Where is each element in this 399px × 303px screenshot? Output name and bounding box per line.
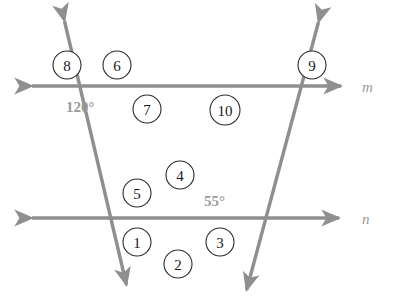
angle-marker-1: 1	[123, 228, 151, 256]
angle-number-1: 1	[133, 235, 141, 251]
angle-number-6: 6	[113, 58, 121, 74]
angle-marker-10: 10	[210, 95, 240, 125]
angle-number-4: 4	[176, 168, 184, 184]
line-label-n: n	[362, 211, 370, 227]
angle-number-7: 7	[143, 102, 151, 118]
angle-number-5: 5	[133, 186, 141, 202]
angle-number-9: 9	[308, 58, 316, 74]
angle-marker-6: 6	[103, 51, 131, 79]
angle-measure-55: 55°	[204, 193, 225, 209]
angle-marker-9: 9	[298, 51, 326, 79]
angle-marker-2: 2	[164, 250, 192, 278]
angle-number-3: 3	[216, 235, 224, 251]
angle-marker-4: 4	[166, 161, 194, 189]
angle-number-2: 2	[174, 257, 182, 273]
angle-measure-120: 120°	[66, 99, 95, 115]
geometry-diagram: m n 120° 55° 1 2 3 4	[0, 0, 399, 303]
angle-marker-5: 5	[123, 179, 151, 207]
angle-number-8: 8	[63, 58, 71, 74]
angle-marker-8: 8	[53, 51, 81, 79]
line-name-labels: m n	[362, 79, 373, 227]
diagram-canvas: m n 120° 55° 1 2 3 4	[0, 0, 399, 303]
angle-marker-3: 3	[206, 228, 234, 256]
angle-number-10: 10	[218, 103, 233, 119]
angle-marker-7: 7	[133, 95, 161, 123]
line-label-m: m	[362, 79, 373, 95]
